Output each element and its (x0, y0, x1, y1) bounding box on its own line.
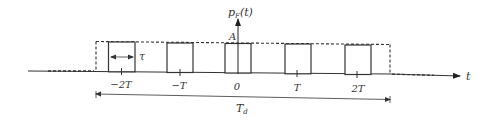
pulse-2T (345, 45, 371, 75)
y-axis-label: pF(t) (228, 6, 253, 20)
tick-label-2T: 2T (350, 83, 365, 94)
tick-label-T: T (294, 82, 302, 93)
pulse-train-diagram: pF(t) A τ t −2T −T 0 T 2T Td (0, 0, 495, 120)
amplitude-label: A (228, 31, 236, 42)
duration-label: Td (236, 102, 248, 116)
tick-label-minus-2T: −2T (110, 79, 133, 90)
pulse-T (285, 44, 311, 74)
pulse-width-label: τ (139, 50, 146, 63)
tick-labels: −2T −T 0 T 2T (110, 79, 366, 94)
x-axis-label: t (466, 70, 471, 83)
tick-label-0: 0 (234, 81, 241, 92)
diagram-svg: pF(t) A τ t −2T −T 0 T 2T Td (0, 0, 495, 120)
pulses (109, 42, 372, 75)
pulse-minus-T (167, 43, 193, 73)
tick-label-minus-T: −T (171, 80, 187, 91)
